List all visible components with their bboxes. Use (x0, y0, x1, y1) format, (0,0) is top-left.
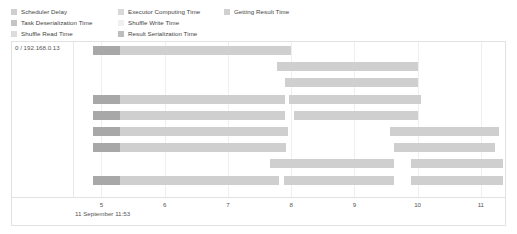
task-segment-executor_computing_time[interactable] (270, 159, 393, 168)
task-bar-row[interactable] (12, 143, 505, 152)
x-axis-tick-9: 9 (353, 201, 356, 208)
legend-swatch-task_deserialization_time (11, 20, 17, 26)
legend-item-executor_computing_time[interactable]: Executor Computing Time (118, 7, 200, 16)
task-bar-row[interactable] (12, 176, 505, 185)
legend-swatch-scheduler_delay (11, 9, 17, 15)
legend-item-task_deserialization_time[interactable]: Task Deserialization Time (11, 18, 92, 27)
task-segment-scheduler_delay[interactable] (93, 46, 121, 55)
task-segment-scheduler_delay[interactable] (93, 95, 121, 104)
x-axis-tick-6: 6 (163, 201, 166, 208)
chart-legend: Scheduler DelayTask Deserialization Time… (11, 7, 341, 37)
task-segment-executor_computing_time[interactable] (120, 127, 288, 136)
task-bar-row[interactable] (12, 46, 505, 55)
task-segment-executor_computing_time[interactable] (289, 95, 421, 104)
task-segment-scheduler_delay[interactable] (93, 176, 121, 185)
legend-swatch-result_serialization_time (118, 31, 124, 37)
legend-swatch-executor_computing_time (118, 9, 124, 15)
task-segment-executor_computing_time[interactable] (120, 95, 284, 104)
legend-column-2: Executor Computing TimeShuffle Write Tim… (118, 7, 200, 40)
spark-event-timeline: Scheduler DelayTask Deserialization Time… (0, 0, 517, 234)
legend-label-task_deserialization_time: Task Deserialization Time (21, 19, 92, 26)
legend-item-shuffle_read_time[interactable]: Shuffle Read Time (11, 29, 92, 38)
x-axis-tick-8: 8 (289, 201, 292, 208)
x-axis-tick-10: 10 (414, 201, 421, 208)
plot-area[interactable]: 0 / 192.168.0.13 56789101111 September 1… (12, 42, 505, 225)
legend-label-shuffle_write_time: Shuffle Write Time (128, 19, 179, 26)
legend-label-executor_computing_time: Executor Computing Time (128, 8, 200, 15)
legend-label-scheduler_delay: Scheduler Delay (21, 8, 67, 15)
legend-label-result_serialization_time: Result Serialization Time (128, 30, 197, 37)
task-segment-scheduler_delay[interactable] (93, 127, 121, 136)
x-axis-line (12, 197, 505, 198)
task-segment-executor_computing_time[interactable] (411, 176, 503, 185)
legend-label-getting_result_time: Getting Result Time (234, 8, 289, 15)
legend-item-getting_result_time[interactable]: Getting Result Time (224, 7, 289, 16)
task-segment-executor_computing_time[interactable] (294, 111, 417, 120)
task-bar-row[interactable] (12, 78, 505, 87)
task-segment-executor_computing_time[interactable] (394, 143, 495, 152)
legend-swatch-getting_result_time (224, 9, 230, 15)
task-segment-scheduler_delay[interactable] (93, 111, 121, 120)
legend-item-result_serialization_time[interactable]: Result Serialization Time (118, 29, 200, 38)
task-bar-row[interactable] (12, 95, 505, 104)
timeline-timestamp: 11 September 11:53 (75, 210, 130, 217)
executor-lane-label: 0 / 192.168.0.13 (15, 44, 60, 51)
x-axis-tick-5: 5 (100, 201, 103, 208)
legend-column-1: Scheduler DelayTask Deserialization Time… (11, 7, 92, 40)
legend-swatch-shuffle_read_time (11, 31, 17, 37)
task-segment-executor_computing_time[interactable] (411, 159, 503, 168)
legend-label-shuffle_read_time: Shuffle Read Time (21, 30, 73, 37)
task-bar-row[interactable] (12, 111, 505, 120)
legend-swatch-shuffle_write_time (118, 20, 124, 26)
task-bar-row[interactable] (12, 62, 505, 71)
task-segment-executor_computing_time[interactable] (277, 62, 418, 71)
legend-item-shuffle_write_time[interactable]: Shuffle Write Time (118, 18, 200, 27)
legend-item-scheduler_delay[interactable]: Scheduler Delay (11, 7, 92, 16)
legend-column-3: Getting Result Time (224, 7, 289, 18)
task-segment-executor_computing_time[interactable] (120, 143, 286, 152)
task-bar-row[interactable] (12, 127, 505, 136)
task-segment-executor_computing_time[interactable] (390, 127, 498, 136)
task-segment-executor_computing_time[interactable] (120, 111, 284, 120)
task-segment-executor_computing_time[interactable] (285, 78, 418, 87)
task-segment-executor_computing_time[interactable] (120, 46, 291, 55)
x-axis-tick-11: 11 (478, 201, 484, 208)
task-segment-scheduler_delay[interactable] (93, 143, 121, 152)
task-segment-executor_computing_time[interactable] (284, 176, 394, 185)
task-segment-executor_computing_time[interactable] (120, 176, 278, 185)
task-bar-row[interactable] (12, 159, 505, 168)
x-axis-tick-7: 7 (226, 201, 229, 208)
timeline-chart[interactable]: 0 / 192.168.0.13 56789101111 September 1… (11, 41, 506, 226)
